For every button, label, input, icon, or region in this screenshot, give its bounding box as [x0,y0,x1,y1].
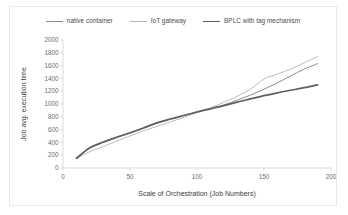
data-series-group [76,57,317,159]
y-tick-label: 2000 [44,36,59,43]
y-tick-label: 1200 [44,87,59,94]
line-chart-svg: 0200400600800100012001400160018002000 05… [0,0,348,215]
x-axis-ticks: 050100150200 [61,168,337,180]
series-line [76,64,317,159]
chart-figure: native container IoT gateway BPLC with t… [0,0,348,215]
x-tick-label: 0 [61,173,65,180]
y-axis-title: Job avg. execution time [20,67,28,141]
y-tick-label: 1800 [44,49,59,56]
y-tick-label: 600 [48,126,59,133]
plot-area: 0200400600800100012001400160018002000 05… [0,0,348,215]
x-tick-label: 50 [126,173,134,180]
series-line [76,85,317,159]
x-tick-label: 100 [192,173,203,180]
x-tick-label: 150 [259,173,270,180]
y-tick-label: 0 [55,164,59,171]
y-tick-label: 1600 [44,62,59,69]
y-axis-ticks: 0200400600800100012001400160018002000 [44,36,63,171]
x-tick-label: 200 [326,173,337,180]
y-tick-label: 800 [48,113,59,120]
series-line [76,57,317,159]
y-tick-label: 1400 [44,75,59,82]
y-tick-label: 400 [48,139,59,146]
y-tick-label: 1000 [44,100,59,107]
x-axis-title: Scale of Orchestration (Job Numbers) [138,190,256,198]
y-tick-label: 200 [48,151,59,158]
